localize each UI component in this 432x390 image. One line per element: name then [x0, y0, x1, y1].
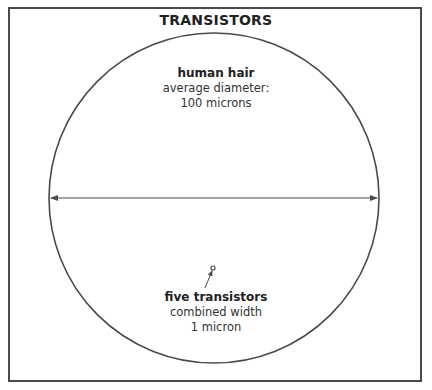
transistors-heading: five transistors — [0, 290, 432, 305]
transistors-label: five transistors combined width 1 micron — [0, 290, 432, 335]
hair-line1: average diameter: — [0, 81, 432, 96]
transistors-circle — [211, 266, 215, 270]
hair-line2: 100 microns — [0, 96, 432, 111]
diagram-title: TRANSISTORS — [0, 12, 432, 28]
transistors-leader-arrow — [205, 271, 212, 288]
hair-heading: human hair — [0, 66, 432, 81]
hair-label: human hair average diameter: 100 microns — [0, 66, 432, 111]
transistors-line2: 1 micron — [0, 320, 432, 335]
transistors-line1: combined width — [0, 305, 432, 320]
